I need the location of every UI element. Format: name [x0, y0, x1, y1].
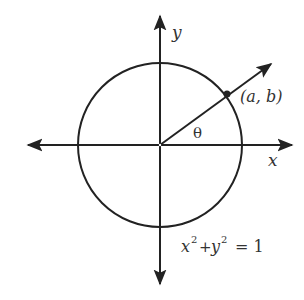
- angle-theta-label: θ: [193, 124, 202, 142]
- equation-y: y: [210, 237, 221, 256]
- equation-y-exponent: 2: [221, 234, 227, 245]
- x-axis-label: x: [268, 150, 278, 170]
- y-axis-label: y: [171, 22, 182, 42]
- origin-point: [159, 144, 161, 146]
- diagram-canvas: y x (a, b) θ x 2 + y 2 = 1: [0, 0, 304, 300]
- equation-x-exponent: 2: [191, 234, 197, 245]
- equation-x: x: [181, 237, 190, 256]
- equation-equals-one: = 1: [235, 237, 264, 256]
- equation-plus: +: [199, 238, 212, 256]
- point-label: (a, b): [240, 87, 282, 106]
- unit-circle-diagram: y x (a, b) θ x 2 + y 2 = 1: [0, 0, 304, 300]
- circle-equation: x 2 + y 2 = 1: [181, 234, 264, 256]
- point-a-b: [224, 91, 231, 98]
